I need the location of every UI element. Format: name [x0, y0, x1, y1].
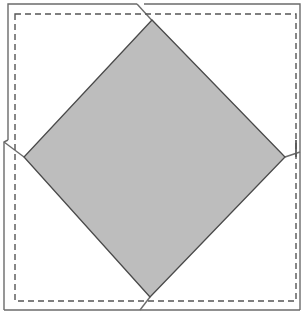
- diagram-canvas: [0, 0, 308, 322]
- folding-diagram: [0, 0, 308, 322]
